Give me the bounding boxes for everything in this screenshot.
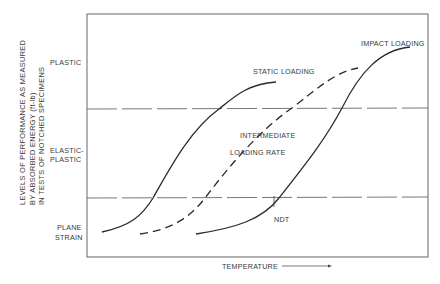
intermediate-label-line2: LOADING RATE <box>230 148 285 157</box>
x-axis-title: TEMPERATURE <box>222 262 278 271</box>
y-axis-title-line1: LEVELS OF PERFORMANCE AS MEASURED <box>18 40 27 205</box>
static-loading-curve <box>102 82 276 232</box>
transition-temperature-diagram: STATIC LOADING INTERMEDIATE LOADING RATE… <box>0 0 440 284</box>
lower-boundary-line <box>87 197 428 198</box>
level-elastic-plastic-label-2: PLASTIC <box>50 155 81 164</box>
intermediate-label-line1: INTERMEDIATE <box>240 131 295 140</box>
arrow-right-icon <box>328 265 332 268</box>
upper-boundary-line <box>87 108 428 109</box>
level-plane-strain-label-1: PLANE <box>57 223 82 232</box>
ndt-label: NDT <box>274 215 290 224</box>
y-axis-title-line2: BY ABSORBED ENERGY (ft-lb) <box>28 92 37 205</box>
level-plastic-label: PLASTIC <box>50 58 81 67</box>
impact-loading-label: IMPACT LOADING <box>361 39 425 48</box>
y-axis-title: LEVELS OF PERFORMANCE AS MEASURED BY ABS… <box>18 40 46 205</box>
level-plane-strain-label-2: STRAIN <box>55 233 83 242</box>
static-loading-label: STATIC LOADING <box>253 67 315 76</box>
y-axis-title-line3: IN TESTS OF NOTCHED SPECIMENS <box>37 67 46 205</box>
level-elastic-plastic-label-1: ELASTIC- <box>50 146 84 155</box>
